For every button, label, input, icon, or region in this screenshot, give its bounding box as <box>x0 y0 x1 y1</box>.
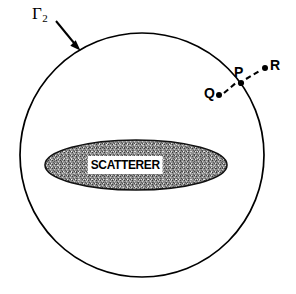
point-label-r: R <box>270 58 280 72</box>
scatterer-label: SCATTERER <box>88 156 162 174</box>
segment-q-p <box>224 82 237 93</box>
scattering-geometry-figure: Γ2 P Q R SCATTERER <box>0 0 296 294</box>
gamma-2-label: Γ2 <box>32 5 48 24</box>
point-marker-r[interactable] <box>262 65 268 71</box>
point-label-p: P <box>234 65 243 79</box>
segment-p-r <box>246 70 261 79</box>
figure-canvas <box>0 0 296 294</box>
gamma-2-label-symbol: Γ <box>32 4 42 23</box>
gamma-2-arrow <box>56 21 79 49</box>
point-marker-p[interactable] <box>238 80 244 86</box>
point-marker-q[interactable] <box>216 92 222 98</box>
point-label-q: Q <box>204 86 215 100</box>
gamma-2-label-subscript: 2 <box>42 12 48 24</box>
